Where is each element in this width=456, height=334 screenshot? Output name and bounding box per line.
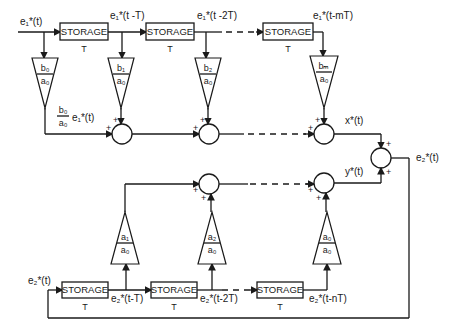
svg-text:a₀: a₀ — [323, 232, 332, 242]
svg-text:+: + — [315, 115, 320, 125]
storage-box-feedback-n: STORAGE T — [257, 282, 303, 312]
signal-label-e1-t-T: e₁*(t -T) — [110, 10, 144, 21]
svg-text:e₁*(t): e₁*(t) — [72, 112, 94, 123]
delay-label: T — [285, 44, 291, 54]
delay-label: T — [82, 302, 88, 312]
storage-box-forward-1: STORAGE T — [60, 23, 108, 54]
delay-label: T — [81, 44, 87, 54]
svg-text:a₀: a₀ — [41, 76, 50, 86]
gain-b1: b₁ a₀ — [108, 58, 134, 108]
signal-label-y: y*(t) — [345, 166, 363, 177]
svg-text:bₘ: bₘ — [318, 61, 329, 71]
svg-text:+: + — [200, 115, 205, 125]
svg-text:+: + — [113, 115, 118, 125]
svg-text:b₂: b₂ — [204, 63, 213, 73]
storage-label: STORAGE — [147, 26, 193, 37]
storage-box-feedback-1: STORAGE T — [62, 282, 108, 312]
svg-text:+: + — [308, 123, 313, 133]
summing-junction-b1 — [199, 174, 219, 194]
summing-junction-final — [371, 148, 391, 168]
gain-b0: b₀ a₀ — [32, 58, 58, 108]
svg-text:+: + — [386, 139, 391, 149]
storage-label: STORAGE — [61, 26, 107, 37]
storage-box-forward-m: STORAGE T — [263, 23, 313, 54]
delay-label: T — [277, 302, 283, 312]
gain-b2: b₂ a₀ — [195, 58, 221, 108]
delay-label: T — [171, 302, 177, 312]
signal-label-e2-t: e₂*(t) — [28, 275, 51, 286]
svg-text:a₀: a₀ — [208, 245, 217, 255]
summing-junction-fm — [314, 124, 334, 144]
svg-text:a₀: a₀ — [204, 76, 213, 86]
svg-text:b₀: b₀ — [41, 63, 50, 73]
svg-text:+: + — [193, 185, 198, 195]
signal-label-e1-t-mT: e₁*(t-mT) — [313, 10, 353, 21]
svg-text:a₀: a₀ — [320, 74, 329, 84]
filter-diagram: STORAGE T STORAGE T STORAGE T e₁*(t) e₁*… — [0, 0, 456, 334]
svg-text:+: + — [193, 123, 198, 133]
gain-an: a₀ a₀ — [313, 212, 341, 264]
summing-junction-bn — [314, 173, 334, 193]
signal-label-e2-t-2T: e₂*(t-2T) — [200, 293, 238, 304]
storage-label: STORAGE — [257, 284, 303, 295]
signal-label-e2-t-T: e₂*(t-T) — [111, 293, 143, 304]
signal-label-e2-out: e₂*(t) — [416, 152, 439, 163]
svg-text:a₀: a₀ — [323, 245, 332, 255]
signal-label-e1-t: e₁*(t) — [20, 16, 42, 27]
storage-box-forward-2: STORAGE T — [146, 23, 194, 54]
svg-text:a₀: a₀ — [121, 245, 130, 255]
signal-label-e1-t-2T: e₁*(t -2T) — [197, 10, 237, 21]
summing-junction-f1 — [112, 124, 132, 144]
gain-a1: a₁ a₀ — [111, 212, 139, 264]
svg-text:a₀: a₀ — [59, 118, 68, 128]
gain-a2: a₂ a₀ — [198, 212, 226, 264]
storage-box-feedback-2: STORAGE T — [151, 282, 197, 312]
first-product-label: b₀ a₀ e₁*(t) — [57, 105, 94, 128]
svg-text:+: + — [316, 193, 321, 203]
svg-text:a₂: a₂ — [208, 232, 217, 242]
svg-text:+: + — [386, 167, 391, 177]
svg-text:b₁: b₁ — [117, 63, 125, 73]
svg-text:b₀: b₀ — [59, 105, 68, 115]
svg-text:a₁: a₁ — [121, 232, 129, 242]
svg-text:a₀: a₀ — [117, 76, 126, 86]
storage-label: STORAGE — [62, 284, 108, 295]
storage-label: STORAGE — [151, 284, 197, 295]
summing-junction-f2 — [199, 124, 219, 144]
gain-bm: bₘ a₀ — [310, 56, 338, 108]
signal-label-x: x*(t) — [345, 115, 363, 126]
delay-label: T — [167, 44, 173, 54]
storage-label: STORAGE — [265, 26, 311, 37]
svg-text:+: + — [201, 193, 206, 203]
signal-label-e2-t-nT: e₂*(t-nT) — [309, 293, 347, 304]
svg-text:+: + — [308, 185, 313, 195]
svg-text:+: + — [106, 123, 111, 133]
